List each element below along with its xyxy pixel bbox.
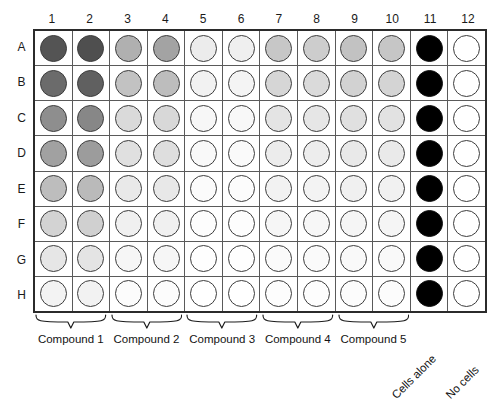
well-cell-E5[interactable]: [185, 172, 223, 206]
well-cell-F9[interactable]: [336, 207, 374, 241]
well-cell-B10[interactable]: [373, 66, 411, 100]
well-cell-F6[interactable]: [223, 207, 261, 241]
well-D6[interactable]: [228, 140, 255, 167]
well-H6[interactable]: [228, 280, 255, 307]
well-cell-H11[interactable]: [411, 277, 449, 311]
well-D1[interactable]: [40, 140, 67, 167]
well-cell-G6[interactable]: [223, 242, 261, 276]
well-cell-H9[interactable]: [336, 277, 374, 311]
well-cell-E8[interactable]: [298, 172, 336, 206]
well-cell-B9[interactable]: [336, 66, 374, 100]
well-G11[interactable]: [416, 245, 443, 272]
well-cell-F12[interactable]: [448, 207, 485, 241]
well-A7[interactable]: [265, 35, 292, 62]
well-A1[interactable]: [40, 35, 67, 62]
well-D10[interactable]: [378, 140, 405, 167]
well-C4[interactable]: [153, 105, 180, 132]
well-E1[interactable]: [40, 175, 67, 202]
well-F10[interactable]: [378, 210, 405, 237]
well-cell-D2[interactable]: [73, 136, 111, 170]
well-G3[interactable]: [115, 245, 142, 272]
well-cell-B4[interactable]: [148, 66, 186, 100]
well-cell-A5[interactable]: [185, 31, 223, 65]
well-cell-C5[interactable]: [185, 101, 223, 135]
well-cell-B2[interactable]: [73, 66, 111, 100]
well-cell-F7[interactable]: [260, 207, 298, 241]
well-cell-D1[interactable]: [35, 136, 73, 170]
well-cell-A7[interactable]: [260, 31, 298, 65]
well-cell-E10[interactable]: [373, 172, 411, 206]
well-cell-B12[interactable]: [448, 66, 485, 100]
well-cell-C3[interactable]: [110, 101, 148, 135]
well-cell-G10[interactable]: [373, 242, 411, 276]
well-D4[interactable]: [153, 140, 180, 167]
well-cell-A11[interactable]: [411, 31, 449, 65]
well-G4[interactable]: [153, 245, 180, 272]
well-cell-A4[interactable]: [148, 31, 186, 65]
well-cell-C4[interactable]: [148, 101, 186, 135]
well-G6[interactable]: [228, 245, 255, 272]
well-cell-G12[interactable]: [448, 242, 485, 276]
well-cell-A8[interactable]: [298, 31, 336, 65]
well-A10[interactable]: [378, 35, 405, 62]
well-C12[interactable]: [453, 105, 480, 132]
well-cell-G7[interactable]: [260, 242, 298, 276]
well-cell-E3[interactable]: [110, 172, 148, 206]
well-cell-G4[interactable]: [148, 242, 186, 276]
well-B12[interactable]: [453, 70, 480, 97]
well-cell-H3[interactable]: [110, 277, 148, 311]
well-A8[interactable]: [303, 35, 330, 62]
well-C11[interactable]: [416, 105, 443, 132]
well-cell-D4[interactable]: [148, 136, 186, 170]
well-A9[interactable]: [340, 35, 367, 62]
well-D9[interactable]: [340, 140, 367, 167]
well-H7[interactable]: [265, 280, 292, 307]
well-cell-E6[interactable]: [223, 172, 261, 206]
well-E7[interactable]: [265, 175, 292, 202]
well-cell-G5[interactable]: [185, 242, 223, 276]
well-cell-C1[interactable]: [35, 101, 73, 135]
well-cell-F5[interactable]: [185, 207, 223, 241]
well-cell-G3[interactable]: [110, 242, 148, 276]
well-G12[interactable]: [453, 245, 480, 272]
well-B4[interactable]: [153, 70, 180, 97]
well-cell-A9[interactable]: [336, 31, 374, 65]
well-cell-F2[interactable]: [73, 207, 111, 241]
well-F9[interactable]: [340, 210, 367, 237]
well-D12[interactable]: [453, 140, 480, 167]
well-cell-H6[interactable]: [223, 277, 261, 311]
well-cell-A2[interactable]: [73, 31, 111, 65]
well-cell-E7[interactable]: [260, 172, 298, 206]
well-D2[interactable]: [77, 140, 104, 167]
well-cell-D10[interactable]: [373, 136, 411, 170]
well-E6[interactable]: [228, 175, 255, 202]
well-cell-E9[interactable]: [336, 172, 374, 206]
well-G1[interactable]: [40, 245, 67, 272]
well-H5[interactable]: [190, 280, 217, 307]
well-cell-A3[interactable]: [110, 31, 148, 65]
well-cell-F1[interactable]: [35, 207, 73, 241]
well-cell-G9[interactable]: [336, 242, 374, 276]
well-cell-B7[interactable]: [260, 66, 298, 100]
well-G9[interactable]: [340, 245, 367, 272]
well-cell-E4[interactable]: [148, 172, 186, 206]
well-F8[interactable]: [303, 210, 330, 237]
well-B8[interactable]: [303, 70, 330, 97]
well-A4[interactable]: [153, 35, 180, 62]
well-A12[interactable]: [453, 35, 480, 62]
well-F4[interactable]: [153, 210, 180, 237]
well-cell-A6[interactable]: [223, 31, 261, 65]
well-E2[interactable]: [77, 175, 104, 202]
well-A11[interactable]: [416, 35, 443, 62]
well-D11[interactable]: [416, 140, 443, 167]
well-cell-C7[interactable]: [260, 101, 298, 135]
well-H9[interactable]: [340, 280, 367, 307]
well-F12[interactable]: [453, 210, 480, 237]
well-B3[interactable]: [115, 70, 142, 97]
well-cell-G2[interactable]: [73, 242, 111, 276]
well-A5[interactable]: [190, 35, 217, 62]
well-cell-D5[interactable]: [185, 136, 223, 170]
well-cell-A12[interactable]: [448, 31, 485, 65]
well-cell-H4[interactable]: [148, 277, 186, 311]
well-cell-F11[interactable]: [411, 207, 449, 241]
